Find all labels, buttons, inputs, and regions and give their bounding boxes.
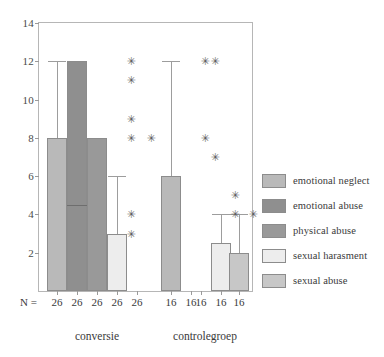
bar	[211, 243, 231, 291]
y-axis-tick-label: 12	[23, 55, 34, 67]
figure: ✳✳✳✳✳✳✳✳✳✳✳✳✳✳ 1412108642 N = 2626262626…	[0, 0, 384, 357]
y-axis-tick-label: 10	[23, 94, 34, 106]
y-axis-tick-mark	[35, 23, 39, 24]
x-axis-tick-mark	[239, 291, 240, 295]
whisker-stem	[171, 61, 172, 176]
x-axis-tick-mark	[201, 291, 202, 295]
n-value: 26	[132, 296, 143, 308]
legend-swatch	[262, 224, 286, 238]
x-axis-tick-mark	[97, 291, 98, 295]
n-value: 16	[196, 296, 207, 308]
outlier-marker: ✳	[126, 132, 135, 143]
outlier-marker: ✳	[248, 209, 257, 220]
whisker-cap	[162, 61, 180, 62]
y-axis-tick-label: 8	[28, 132, 34, 144]
y-axis-tick-mark	[35, 100, 39, 101]
legend-swatch	[262, 174, 286, 188]
outlier-marker: ✳	[210, 56, 219, 67]
outlier-marker: ✳	[230, 209, 239, 220]
legend-item: physical abuse	[262, 218, 384, 243]
outlier-marker: ✳	[200, 56, 209, 67]
legend-swatch	[262, 249, 286, 263]
x-axis-tick-mark	[171, 291, 172, 295]
y-axis-tick-mark	[35, 61, 39, 62]
bar	[229, 253, 249, 291]
legend-label: emotional neglect	[293, 175, 370, 186]
legend-swatch	[262, 199, 286, 213]
whisker-stem	[57, 61, 58, 138]
y-axis-tick-label: 2	[28, 247, 34, 259]
whisker-cap	[108, 176, 126, 177]
median-line	[67, 205, 87, 206]
group-label-controlegroep: controlegroep	[173, 330, 237, 342]
legend-item: emotional neglect	[262, 168, 384, 193]
x-axis-tick-mark	[191, 291, 192, 295]
n-row: N = 26262626261616161616	[0, 296, 384, 312]
n-value: 16	[166, 296, 177, 308]
y-axis-tick-mark	[35, 138, 39, 139]
whisker-cap	[212, 214, 230, 215]
bar	[87, 138, 107, 291]
outlier-marker: ✳	[126, 228, 135, 239]
legend-item: sexual harasment	[262, 243, 384, 268]
x-axis-tick-mark	[77, 291, 78, 295]
y-axis-tick-label: 14	[23, 17, 34, 29]
outlier-marker: ✳	[126, 113, 135, 124]
n-value: 16	[216, 296, 227, 308]
bar	[67, 61, 87, 291]
legend: emotional neglectemotional abusephysical…	[262, 168, 384, 293]
y-axis-tick-mark	[35, 176, 39, 177]
legend-item: emotional abuse	[262, 193, 384, 218]
n-value: 26	[92, 296, 103, 308]
legend-label: sexual abuse	[293, 275, 348, 286]
outlier-marker: ✳	[126, 56, 135, 67]
bar	[47, 138, 67, 291]
x-axis-tick-mark	[137, 291, 138, 295]
legend-label: physical abuse	[293, 225, 356, 236]
group-label-conversie: conversie	[75, 330, 119, 342]
outlier-marker: ✳	[146, 132, 155, 143]
x-axis-tick-mark	[57, 291, 58, 295]
legend-item: sexual abuse	[262, 268, 384, 293]
outlier-marker: ✳	[126, 209, 135, 220]
y-axis-tick-mark	[35, 253, 39, 254]
outlier-marker: ✳	[200, 132, 209, 143]
outlier-marker: ✳	[230, 190, 239, 201]
x-axis-tick-mark	[221, 291, 222, 295]
plot-inner: ✳✳✳✳✳✳✳✳✳✳✳✳✳✳	[39, 23, 252, 291]
bar	[107, 234, 127, 291]
legend-label: emotional abuse	[293, 200, 363, 211]
n-value: 26	[112, 296, 123, 308]
n-value: 26	[52, 296, 63, 308]
legend-label: sexual harasment	[293, 250, 367, 261]
legend-swatch	[262, 274, 286, 288]
outlier-marker: ✳	[126, 75, 135, 86]
y-axis-tick-mark	[35, 214, 39, 215]
x-axis-tick-mark	[117, 291, 118, 295]
whisker-stem	[221, 214, 222, 243]
outlier-marker: ✳	[210, 152, 219, 163]
n-value: 26	[72, 296, 83, 308]
bar	[161, 176, 181, 291]
whisker-cap	[48, 61, 66, 62]
n-label: N =	[20, 296, 37, 308]
y-axis-tick-label: 4	[28, 208, 34, 220]
whisker-stem	[117, 176, 118, 233]
n-value: 16	[234, 296, 245, 308]
plot-area: ✳✳✳✳✳✳✳✳✳✳✳✳✳✳ 1412108642	[38, 22, 253, 292]
y-axis-tick-label: 6	[28, 170, 34, 182]
